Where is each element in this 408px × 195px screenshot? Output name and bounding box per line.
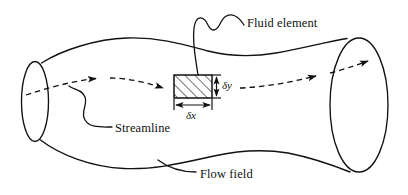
streamline-segment-2: [110, 78, 163, 88]
flow-field-label: Flow field: [200, 168, 253, 181]
outlet-cross-section-ellipse: [330, 38, 388, 172]
fluid-element-body: [174, 75, 212, 98]
delta-y-label: δy: [222, 80, 232, 91]
tube-bottom-contour: [41, 140, 351, 172]
fluid-element-label: Fluid element: [247, 17, 317, 30]
fluid-element-flow-field-figure: Fluid element Streamline Flow field δy δ…: [0, 0, 408, 195]
streamline-segment-1: [26, 79, 96, 96]
streamline-label: Streamline: [115, 122, 170, 135]
streamline-leader-line: [69, 86, 112, 127]
delta-y-dimension: [212, 75, 221, 98]
delta-x-label: δx: [186, 110, 196, 121]
inlet-cross-section-ellipse: [22, 62, 49, 142]
fluid-element-rectangle: [174, 75, 212, 98]
fluid-element-leader-line: [193, 15, 244, 75]
figure-canvas: [0, 0, 408, 195]
streamline-segment-3: [240, 76, 316, 88]
